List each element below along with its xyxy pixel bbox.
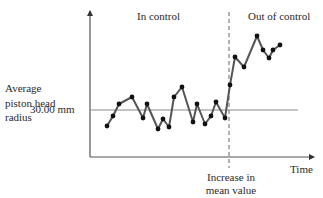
data-point [167,125,172,130]
data-point [172,95,177,100]
region-label-out-of-control: Out of control [248,10,310,23]
data-point [161,117,166,122]
data-point [141,116,146,121]
mean-shift-annotation: Increase in mean value [203,171,259,197]
data-point [191,120,196,125]
data-point [261,48,266,53]
data-point [223,116,228,121]
x-axis-label: Time [290,163,313,176]
region-label-in-control: In control [137,10,180,23]
data-point [233,55,238,60]
data-point [203,122,208,127]
data-point [180,85,185,90]
center-line-label: 30.00 mm [30,103,75,116]
data-point [278,43,283,48]
data-point [228,83,233,88]
data-point [195,102,200,107]
data-point [130,95,135,100]
data-point [145,102,150,107]
data-point [111,114,116,119]
series-line [107,36,280,129]
data-point [209,114,214,119]
data-point [267,56,272,61]
data-point [214,100,219,105]
data-point [156,127,161,132]
data-point [105,124,110,129]
data-point [255,34,260,39]
data-point [117,102,122,107]
data-point [271,48,276,53]
data-point [242,65,247,70]
